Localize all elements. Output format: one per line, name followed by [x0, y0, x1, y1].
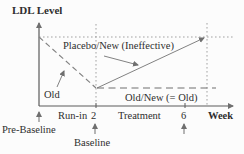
x-axis-label: Week: [208, 110, 233, 122]
baseline-label: Baseline: [74, 137, 110, 149]
week-6-tick-label: 6: [181, 110, 186, 122]
placebo-new-label: Placebo/New (Ineffective): [63, 40, 174, 52]
ldl-trial-figure: LDL Level Placebo/New (Ineffective) Old …: [0, 0, 244, 154]
old-new-label: Old/New (= Old): [125, 92, 197, 104]
run-in-phase-label: Run-in: [58, 110, 87, 122]
week-2-tick-label: 2: [91, 110, 96, 122]
placebo-new-pointer-arrow: [104, 56, 138, 65]
treatment-phase-label: Treatment: [118, 110, 161, 122]
old-label: Old: [44, 89, 60, 101]
pre-baseline-label: Pre-Baseline: [2, 124, 56, 136]
y-axis-label: LDL Level: [12, 4, 62, 16]
old-pointer-arrow: [57, 71, 64, 87]
